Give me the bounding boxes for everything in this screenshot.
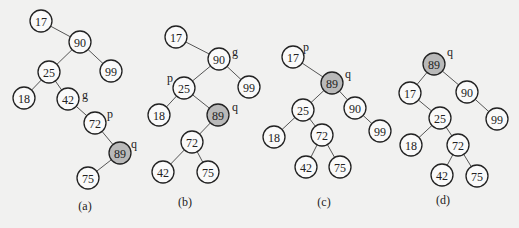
tree-edge: [363, 115, 372, 123]
tree-panel-c: 178925901872994275pq(c): [263, 40, 391, 209]
node-label: 72: [316, 129, 328, 143]
tree-node: 99: [369, 120, 391, 142]
tree-edge: [197, 152, 203, 163]
tree-node: 90: [208, 48, 230, 70]
node-label: 17: [170, 31, 182, 45]
tree-node: 42: [57, 88, 79, 110]
tree-node-highlighted: 89: [207, 104, 229, 126]
node-label: 75: [82, 172, 94, 186]
pointer-label-p: p: [167, 71, 173, 85]
node-label: 90: [461, 86, 473, 100]
node-label: 17: [404, 87, 416, 101]
tree-node: 17: [30, 10, 52, 32]
node-label: 42: [157, 166, 169, 180]
tree-edge: [32, 80, 42, 90]
node-label: 75: [334, 161, 346, 175]
tree-node: 72: [311, 124, 333, 146]
tree-node: 72: [447, 134, 469, 156]
node-label: 89: [428, 58, 440, 72]
tree-edge: [88, 50, 103, 64]
tree-edge: [447, 155, 453, 166]
node-label: 75: [471, 170, 483, 184]
tree-edge: [339, 91, 347, 100]
tree-edge: [102, 131, 113, 144]
tree-edge: [57, 50, 72, 65]
node-label: 72: [89, 117, 101, 131]
tree-edge: [418, 100, 431, 111]
node-label: 99: [491, 113, 503, 127]
tree-node: 25: [429, 107, 451, 129]
node-label: 89: [212, 109, 224, 123]
tree-node-highlighted: 89: [321, 72, 343, 94]
tree-node: 18: [263, 126, 285, 148]
node-label: 72: [452, 139, 464, 153]
node-label: 18: [405, 139, 417, 153]
node-label: 18: [268, 131, 280, 145]
tree-edge: [171, 150, 185, 164]
tree-panel-d: 891790259918724275q(d): [399, 45, 508, 207]
pointer-label-p: p: [107, 107, 113, 121]
tree-node: 75: [77, 167, 99, 189]
tree-edge: [186, 42, 209, 54]
node-label: 25: [297, 104, 309, 118]
tree-edge: [464, 154, 472, 166]
node-label: 99: [105, 65, 117, 79]
tree-node-highlighted: 89: [423, 53, 445, 75]
pointer-label-q: q: [131, 137, 137, 151]
tree-node: 17: [399, 82, 421, 104]
tree-panel-a: 179099251842728975gpq(a): [13, 10, 137, 213]
tree-edge: [446, 127, 452, 136]
node-label: 25: [178, 82, 190, 96]
tree-diagram-canvas: 179099251842728975gpq(a)1790992518897242…: [0, 0, 519, 228]
node-label: 89: [114, 147, 126, 161]
panel-caption: (b): [178, 195, 192, 209]
tree-node: 75: [466, 165, 488, 187]
tree-node: 18: [400, 134, 422, 156]
tree-node: 72: [181, 131, 203, 153]
panel-caption: (d): [436, 193, 450, 207]
tree-panel-b: 179099251889724275gpq(b): [148, 26, 260, 209]
tree-edge: [55, 81, 61, 90]
tree-node-highlighted: 89: [109, 142, 131, 164]
tree-edge: [76, 106, 87, 115]
tree-node: 75: [197, 161, 219, 183]
tree-node: 90: [344, 97, 366, 119]
tree-edge: [417, 72, 427, 84]
tree-node: 25: [173, 77, 195, 99]
tree-node: 99: [100, 60, 122, 82]
node-label: 42: [300, 161, 312, 175]
tree-edge: [97, 160, 112, 171]
tree-node: 42: [431, 164, 453, 186]
node-label: 89: [326, 77, 338, 91]
tree-node: 42: [152, 161, 174, 183]
tree-edge: [166, 96, 176, 107]
tree-edge: [200, 123, 211, 134]
tree-edge: [193, 95, 210, 108]
pointer-label-q: q: [345, 67, 351, 81]
tree-node: 25: [292, 99, 314, 121]
tree-edge: [442, 71, 458, 85]
node-label: 17: [35, 15, 47, 29]
tree-node: 90: [456, 81, 478, 103]
pointer-label-g: g: [232, 45, 238, 59]
node-label: 18: [153, 109, 165, 123]
node-label: 18: [18, 92, 30, 106]
node-label: 42: [62, 93, 74, 107]
node-label: 90: [213, 53, 225, 67]
node-label: 99: [243, 81, 255, 95]
node-label: 17: [287, 51, 299, 65]
tree-node: 17: [282, 46, 304, 68]
tree-edge: [311, 90, 324, 102]
tree-node: 42: [295, 156, 317, 178]
tree-edge: [51, 26, 71, 37]
splay-tree-figure: 179099251842728975gpq(a)1790992518897242…: [0, 0, 519, 228]
panel-caption: (a): [78, 199, 91, 213]
tree-node: 99: [238, 76, 260, 98]
node-label: 90: [74, 36, 86, 50]
tree-node: 25: [38, 61, 60, 83]
tree-node: 18: [13, 87, 35, 109]
tree-edge: [311, 145, 317, 157]
pointer-label-q: q: [447, 45, 453, 59]
pointer-label-q: q: [232, 100, 238, 114]
tree-edge: [327, 145, 334, 158]
